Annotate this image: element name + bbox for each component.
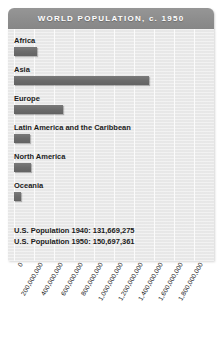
bar xyxy=(14,76,149,85)
bar xyxy=(14,163,31,172)
page-title: WORLD POPULATION, c. 1950 xyxy=(38,14,185,23)
us-population-annotation: U.S. Population 1940: 131,669,275 U.S. P… xyxy=(14,226,134,247)
x-tick-label: 0 xyxy=(16,261,24,268)
bar xyxy=(14,192,21,201)
bar-category-label: Africa xyxy=(14,36,35,46)
bar-category-label: Asia xyxy=(14,65,30,75)
chart-plot-area: AfricaAsiaEuropeLatin America and the Ca… xyxy=(8,29,214,261)
world-population-chart-figure: WORLD POPULATION, c. 1950 AfricaAsiaEuro… xyxy=(0,0,222,341)
gridline xyxy=(174,29,175,261)
bar-category-label: Latin America and the Caribbean xyxy=(14,123,131,133)
bar xyxy=(14,105,63,114)
x-axis-tick-labels: 0200,000,000400,000,000600,000,000800,00… xyxy=(8,261,214,341)
us-population-1950: U.S. Population 1950: 150,697,361 xyxy=(14,237,134,248)
bar xyxy=(14,47,37,56)
bar-category-label: North America xyxy=(14,152,65,162)
us-population-1940: U.S. Population 1940: 131,669,275 xyxy=(14,226,134,237)
bar-category-label: Oceania xyxy=(14,181,43,191)
gridline xyxy=(194,29,195,261)
bar-category-label: Europe xyxy=(14,94,40,104)
gridline xyxy=(154,29,155,261)
chart-title-bar: WORLD POPULATION, c. 1950 xyxy=(8,8,214,29)
bar xyxy=(14,134,30,143)
